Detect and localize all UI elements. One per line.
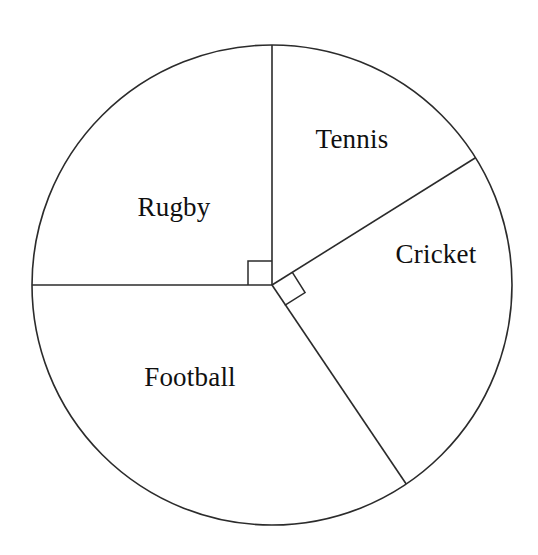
pie-chart-figure: Tennis Cricket Football Rugby <box>0 0 538 555</box>
slice-label-rugby: Rugby <box>137 194 210 221</box>
sector-rugby[interactable] <box>32 45 272 285</box>
slice-label-cricket: Cricket <box>396 241 477 268</box>
slice-label-football: Football <box>144 364 236 391</box>
slice-label-tennis: Tennis <box>316 126 389 153</box>
pie-chart-canvas <box>0 0 538 555</box>
